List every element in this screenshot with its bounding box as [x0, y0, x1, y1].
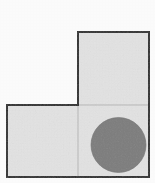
geometric-figure [0, 0, 155, 183]
figure-canvas [0, 0, 155, 183]
shaded-circle [91, 118, 146, 173]
